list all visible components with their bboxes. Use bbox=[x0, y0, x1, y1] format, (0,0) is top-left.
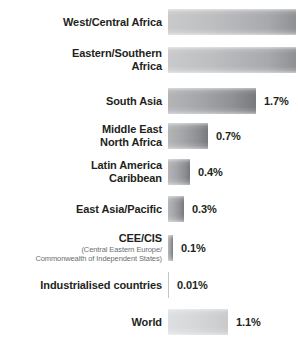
category-label-eastern-southern-africa: Eastern/Southern Africa bbox=[0, 47, 168, 73]
category-label-world: World bbox=[0, 316, 168, 329]
chart-row: East Asia/Pacific0.3% bbox=[0, 196, 298, 222]
bar-world bbox=[168, 309, 228, 335]
category-label-text: World bbox=[0, 316, 162, 329]
chart-row: CEE/CIS(Central Eastern Europe/ Commonwe… bbox=[0, 232, 298, 263]
bar-south-asia bbox=[168, 88, 256, 114]
bar-cee-cis bbox=[168, 235, 173, 261]
category-sublabel-text: (Central Eastern Europe/ Commonwealth of… bbox=[0, 245, 162, 263]
bar-cell bbox=[168, 9, 298, 35]
bar-value-east-asia-pacific: 0.3% bbox=[192, 203, 217, 215]
bar-cell: 0.1% bbox=[168, 235, 298, 261]
chart-row: West/Central Africa bbox=[0, 9, 298, 35]
bar-east-asia-pacific bbox=[168, 196, 184, 222]
category-label-middle-east-north-africa: Middle East North Africa bbox=[0, 123, 168, 149]
chart-row: South Asia1.7% bbox=[0, 88, 298, 114]
category-label-text: Latin America Caribbean bbox=[0, 159, 162, 185]
bar-value-industrialised-countries: 0.01% bbox=[177, 279, 208, 291]
chart-row: Eastern/Southern Africa bbox=[0, 47, 298, 73]
category-label-west-central-africa: West/Central Africa bbox=[0, 16, 168, 29]
bar-latin-america-caribbean bbox=[168, 159, 190, 185]
bar-cell: 0.01% bbox=[168, 272, 298, 298]
chart-row: Latin America Caribbean0.4% bbox=[0, 159, 298, 185]
chart-row: Industrialised countries0.01% bbox=[0, 272, 298, 298]
bar-cell bbox=[168, 47, 298, 73]
bar-cell: 1.7% bbox=[168, 88, 298, 114]
bar-cell: 0.4% bbox=[168, 159, 298, 185]
bar-value-cee-cis: 0.1% bbox=[181, 242, 206, 254]
category-label-text: CEE/CIS bbox=[0, 232, 162, 245]
category-label-industrialised-countries: Industrialised countries bbox=[0, 279, 168, 292]
category-label-text: Industrialised countries bbox=[0, 279, 162, 292]
horizontal-bar-chart: West/Central AfricaEastern/Southern Afri… bbox=[0, 0, 298, 350]
bar-cell: 0.7% bbox=[168, 123, 298, 149]
category-label-text: Eastern/Southern Africa bbox=[0, 47, 162, 73]
chart-row: Middle East North Africa0.7% bbox=[0, 123, 298, 149]
bar-value-latin-america-caribbean: 0.4% bbox=[198, 166, 223, 178]
category-label-cee-cis: CEE/CIS(Central Eastern Europe/ Commonwe… bbox=[0, 232, 168, 263]
category-label-south-asia: South Asia bbox=[0, 95, 168, 108]
bar-cell: 1.1% bbox=[168, 309, 298, 335]
bar-value-world: 1.1% bbox=[236, 316, 261, 328]
bar-value-middle-east-north-africa: 0.7% bbox=[216, 130, 241, 142]
bar-value-south-asia: 1.7% bbox=[264, 95, 289, 107]
category-label-latin-america-caribbean: Latin America Caribbean bbox=[0, 159, 168, 185]
bar-industrialised-countries bbox=[168, 272, 169, 298]
category-label-east-asia-pacific: East Asia/Pacific bbox=[0, 203, 168, 216]
category-label-text: South Asia bbox=[0, 95, 162, 108]
bar-west-central-africa bbox=[168, 9, 296, 35]
category-label-text: East Asia/Pacific bbox=[0, 203, 162, 216]
category-label-text: Middle East North Africa bbox=[0, 123, 162, 149]
category-label-text: West/Central Africa bbox=[0, 16, 162, 29]
bar-eastern-southern-africa bbox=[168, 47, 296, 73]
bar-middle-east-north-africa bbox=[168, 123, 208, 149]
bar-cell: 0.3% bbox=[168, 196, 298, 222]
chart-row: World1.1% bbox=[0, 309, 298, 335]
